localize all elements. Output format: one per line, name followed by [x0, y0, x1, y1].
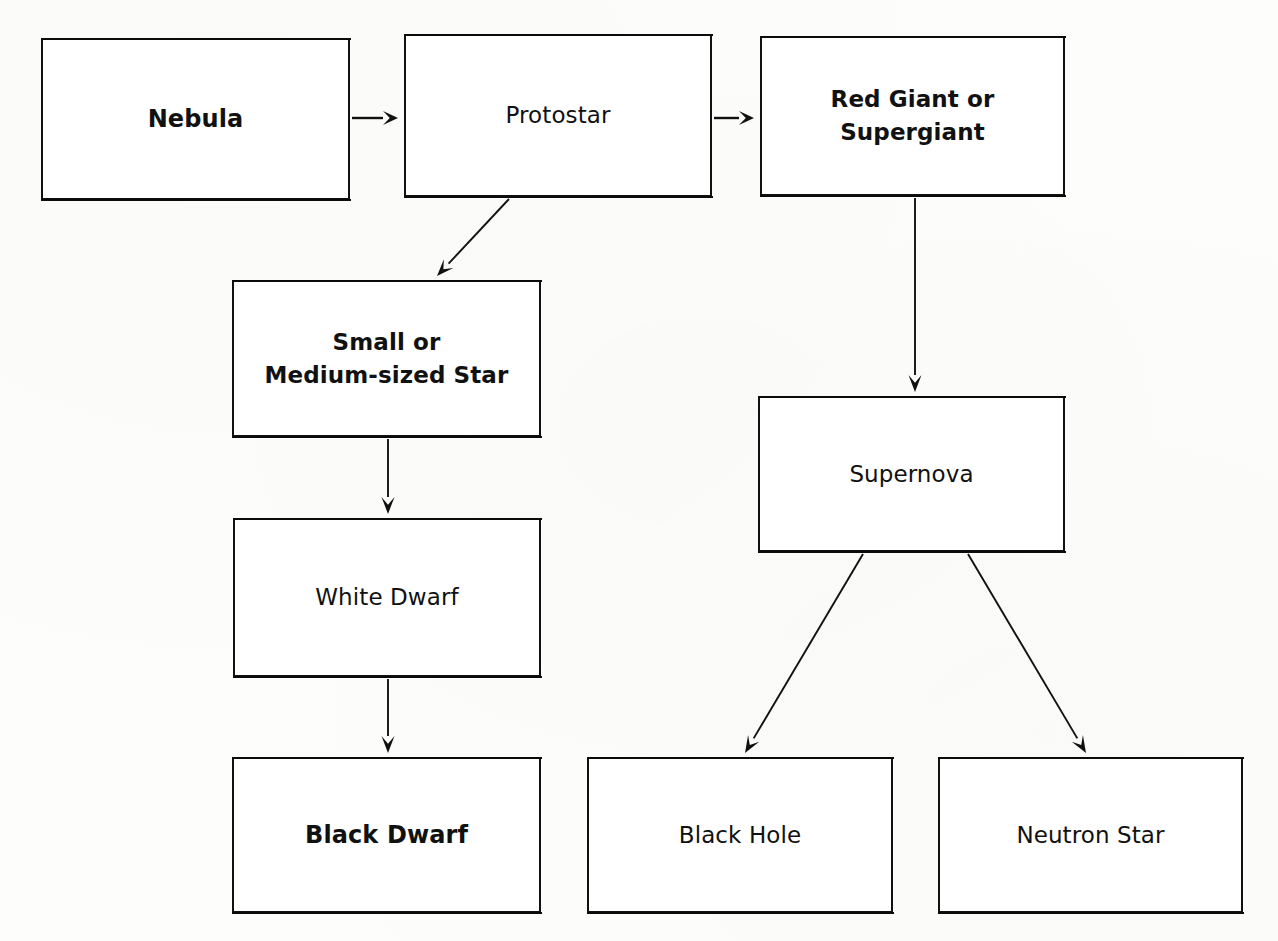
node-supernova[interactable]: Supernova [758, 396, 1065, 552]
node-nebula[interactable]: Nebula [41, 38, 350, 200]
edge-protostar-to-red-giant [714, 111, 754, 125]
node-black-dwarf[interactable]: Black Dwarf [232, 757, 541, 913]
node-label-red-giant: Red Giant or Supergiant [821, 83, 1005, 148]
edge-arrowhead-protostar-to-small-star [437, 259, 453, 276]
edge-small-star-to-white-dwarf [382, 439, 395, 514]
edge-red-giant-to-supernova [909, 198, 922, 392]
edge-arrowhead-nebula-to-protostar [383, 111, 398, 125]
node-label-supernova: Supernova [839, 458, 983, 491]
node-label-white-dwarf: White Dwarf [305, 581, 468, 614]
edge-arrowhead-white-dwarf-to-black-dwarf [382, 736, 395, 753]
node-label-neutron-star: Neutron Star [1006, 819, 1174, 852]
node-label-black-dwarf: Black Dwarf [295, 818, 478, 852]
edge-line-protostar-to-small-star [449, 199, 509, 264]
node-protostar[interactable]: Protostar [404, 34, 712, 197]
edge-white-dwarf-to-black-dwarf [382, 679, 395, 753]
node-red-giant[interactable]: Red Giant or Supergiant [760, 36, 1065, 196]
node-white-dwarf[interactable]: White Dwarf [233, 518, 541, 677]
node-neutron-star[interactable]: Neutron Star [938, 757, 1243, 913]
node-label-protostar: Protostar [495, 99, 620, 132]
node-label-nebula: Nebula [138, 102, 254, 136]
edge-line-supernova-to-black-hole [754, 554, 863, 738]
edge-arrowhead-supernova-to-neutron-star [1072, 735, 1086, 753]
node-black-hole[interactable]: Black Hole [587, 757, 893, 913]
edge-protostar-to-small-star [437, 199, 509, 276]
edge-nebula-to-protostar [352, 111, 398, 125]
node-label-small-medium-star: Small or Medium-sized Star [255, 326, 519, 391]
edge-arrowhead-red-giant-to-supernova [909, 375, 922, 392]
node-label-black-hole: Black Hole [669, 819, 811, 852]
edge-arrowhead-supernova-to-black-hole [745, 735, 759, 753]
edge-supernova-to-neutron-star [968, 554, 1086, 753]
node-small-medium-star[interactable]: Small or Medium-sized Star [232, 280, 541, 437]
edge-supernova-to-black-hole [745, 554, 863, 753]
star-life-cycle-flowchart: NebulaProtostarRed Giant or SupergiantSm… [0, 0, 1278, 941]
edge-line-supernova-to-neutron-star [968, 554, 1077, 738]
edge-arrowhead-protostar-to-red-giant [739, 111, 754, 125]
edge-arrowhead-small-star-to-white-dwarf [382, 497, 395, 514]
